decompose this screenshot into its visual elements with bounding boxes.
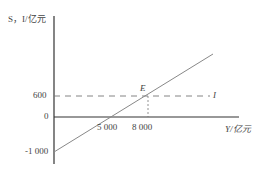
x-tick-8000: 8 000 <box>132 122 152 132</box>
saving-line-s <box>54 54 213 152</box>
x-tick-5000: 5 000 <box>97 122 117 132</box>
y-tick-0: 0 <box>44 111 49 121</box>
x-axis-label: Y/亿元 <box>225 122 251 135</box>
y-tick-neg1000: -1 000 <box>25 146 48 156</box>
y-tick-600: 600 <box>33 90 47 100</box>
equilibrium-label-e: E <box>140 83 146 93</box>
investment-label-i: I <box>213 90 216 100</box>
y-axis-label: S，I/亿元 <box>8 12 46 25</box>
